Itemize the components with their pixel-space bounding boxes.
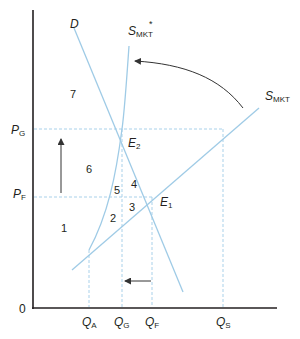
price-label-pg: PG <box>11 123 25 138</box>
region-1-label: 1 <box>61 222 67 234</box>
price-label-pf: PF <box>13 187 26 202</box>
quantity-label-qa: QA <box>82 315 97 330</box>
quantity-label-qg: QG <box>114 315 130 330</box>
region-7-label: 7 <box>70 88 76 100</box>
axes <box>32 10 277 309</box>
equilibrium-e2-label: E2 <box>128 136 141 151</box>
curved-shift-arrow-icon <box>135 61 243 108</box>
curves <box>72 28 259 292</box>
region-4-label: 4 <box>131 178 137 190</box>
supply-market-star-label: SMKT* <box>128 19 153 39</box>
supply-market-curve <box>72 108 259 270</box>
origin-label: 0 <box>19 302 26 316</box>
quantity-label-qs: QS <box>216 315 231 330</box>
quantity-label-qf: QF <box>145 315 159 330</box>
region-3-label: 3 <box>129 201 135 213</box>
equilibrium-e1-label: E1 <box>160 195 173 210</box>
region-6-label: 6 <box>86 163 92 175</box>
supply-demand-diagram: 0 PG PF QA QG QF QS D SMKT* SMKT E2 E1 1… <box>0 0 300 339</box>
guide-lines <box>34 129 223 307</box>
demand-curve-label: D <box>70 17 79 31</box>
supply-market-label: SMKT <box>265 89 290 104</box>
region-5-label: 5 <box>114 184 120 196</box>
region-2-label: 2 <box>110 212 116 224</box>
demand-curve <box>74 28 183 292</box>
